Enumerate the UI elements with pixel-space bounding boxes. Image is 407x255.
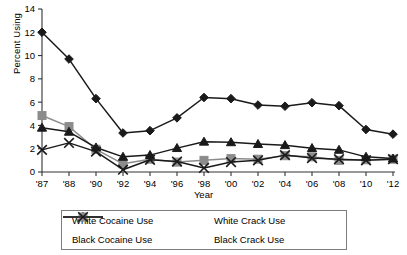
series-line [42,32,393,134]
chart-container: Percent Using Year 02468101214'87'88'90'… [0,0,407,255]
plot-area: 02468101214'87'88'90'92'94'96'98'00'02'0… [0,0,407,210]
x-tick-label: '98 [198,178,210,189]
y-tick-label: 14 [24,3,35,14]
marker-triangle [37,123,46,131]
legend-label: White Crack Use [214,215,285,226]
chart-legend: White Cocaine UseWhite Crack UseBlack Co… [61,210,347,250]
x-tick-label: '96 [171,178,183,189]
x-tick-label: '02 [252,178,264,189]
y-tick-label: 6 [30,97,35,108]
marker-square [335,156,343,164]
legend-item[interactable]: White Crack Use [204,215,346,226]
y-tick-label: 12 [24,27,35,38]
x-tick-label: '00 [225,178,237,189]
x-tick-label: '87 [36,178,48,189]
x-tick-label: '94 [144,178,156,189]
marker-square [308,153,316,161]
x-tick-label: '08 [333,178,345,189]
legend-item[interactable]: Black Crack Use [204,234,346,245]
y-tick-label: 4 [30,120,35,131]
series-white-cocaine-use [38,28,398,138]
y-tick-label: 10 [24,50,35,61]
marker-diamond [146,126,155,135]
legend-label: Black Cocaine Use [72,234,152,245]
marker-diamond [281,102,290,111]
x-tick-label: '04 [279,178,291,189]
x-tick-label: '12 [387,178,399,189]
legend-swatch-x-icon [62,211,104,223]
y-tick-label: 0 [30,166,35,177]
marker-square [200,156,208,164]
x-tick-label: '06 [306,178,318,189]
legend-item[interactable]: Black Cocaine Use [62,234,204,245]
y-tick-label: 2 [30,143,35,154]
marker-diamond [254,101,263,110]
marker-diamond [389,130,398,139]
series-black-crack-use [37,138,398,174]
x-tick-label: '10 [360,178,372,189]
marker-x [64,138,74,148]
legend-label: Black Crack Use [214,234,284,245]
y-tick-label: 8 [30,73,35,84]
marker-diamond [227,94,236,103]
x-tick-label: '92 [117,178,129,189]
x-tick-label: '90 [90,178,102,189]
x-tick-label: '88 [63,178,75,189]
marker-square [38,112,46,120]
marker-diamond [308,98,317,107]
